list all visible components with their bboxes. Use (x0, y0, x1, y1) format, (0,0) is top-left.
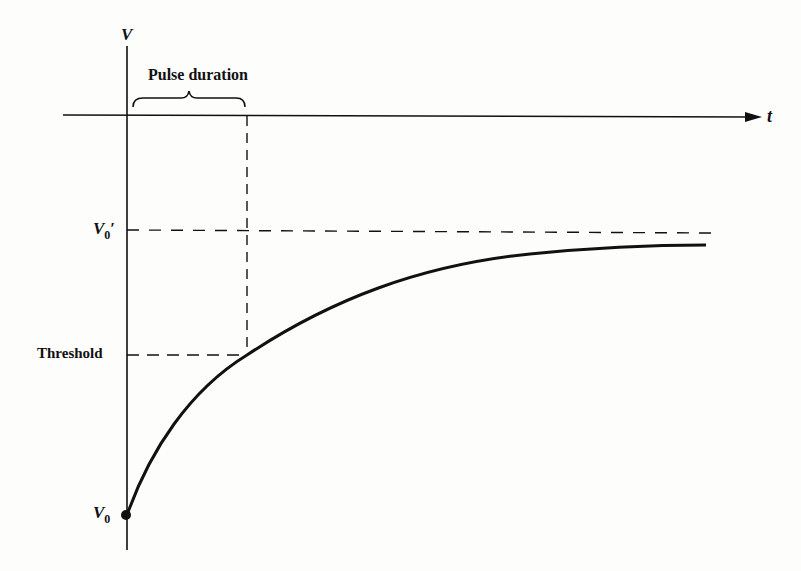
v-axis-label: V (121, 25, 132, 45)
pulse-threshold-diagram: V t Pulse duration V0′ Threshold V0 (0, 0, 801, 571)
threshold-label: Threshold (37, 345, 103, 362)
v0-main: V (93, 503, 104, 522)
t-axis-arrowhead-icon (745, 112, 762, 122)
v0-subscript: 0 (104, 512, 110, 526)
charging-curve (127, 245, 706, 515)
t-axis-label: t (767, 106, 772, 127)
v0-prime-main: V (93, 219, 104, 238)
v0-start-point (121, 510, 131, 520)
v0-label: V0 (93, 503, 110, 523)
pulse-duration-label: Pulse duration (148, 66, 248, 84)
t-axis (63, 115, 750, 117)
v0-prime-dashed-line (127, 230, 712, 233)
diagram-canvas (0, 0, 801, 571)
v0-prime-mark: ′ (110, 219, 115, 238)
v0-prime-subscript: 0 (104, 228, 110, 242)
pulse-duration-brace (133, 91, 245, 107)
v0-prime-label: V0′ (93, 219, 115, 239)
